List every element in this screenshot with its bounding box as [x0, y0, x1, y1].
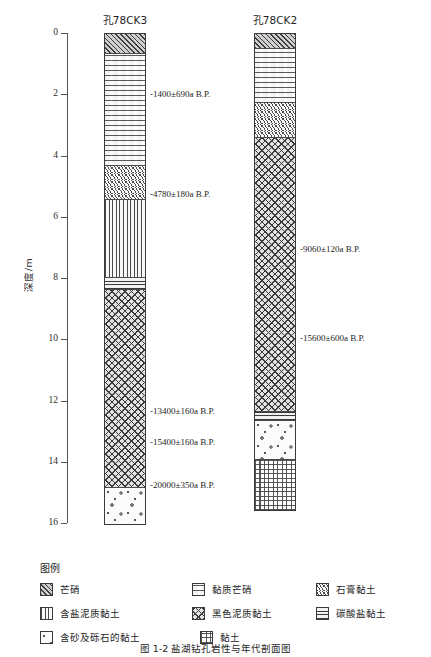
column-header-ck2: 孔78CK2 [233, 12, 317, 27]
date-label-ck3-4: -15400±160a B.P. [150, 438, 215, 447]
legend-item-salt-muddy-clay[interactable]: 含盐泥质黏土 [40, 606, 192, 620]
axis-tick-label-12: 12 [30, 396, 58, 406]
axis-tick-label-0: 0 [30, 28, 58, 38]
axis-tick-14 [61, 462, 67, 463]
layer-ck2-carbonate-clay [255, 411, 295, 420]
layer-ck3-sand-gravel-clay [105, 487, 145, 524]
layer-ck3-clayey-mirabilite [105, 53, 145, 165]
legend-title: 图例 [40, 560, 420, 575]
axis-tick-12 [61, 401, 67, 402]
axis-tick-10 [61, 339, 67, 340]
date-label-ck3-3: -13400±160a B.P. [150, 407, 215, 416]
legend-row-1: 芒硝 黏质芒硝 石膏黏土 [40, 582, 420, 596]
axis-tick-2 [61, 94, 67, 95]
layer-ck3-mirabilite [105, 34, 145, 53]
date-label-ck3-5: -20000±350a B.P. [150, 481, 215, 490]
legend-row-2: 含盐泥质黏土 黑色泥质黏土 碳酸盐黏土 [40, 606, 420, 620]
legend-label-gypsum-clay: 石膏黏土 [336, 582, 376, 596]
date-label-ck2-2: -15600±600a B.P. [300, 334, 365, 343]
axis-tick-label-10: 10 [30, 334, 58, 344]
legend-item-black-muddy-clay[interactable]: 黑色泥质黏土 [192, 606, 316, 620]
layer-ck2-gypsum-clay [255, 102, 295, 137]
axis-tick-0 [61, 33, 67, 34]
axis-tick-8 [61, 278, 67, 279]
axis-tick-label-14: 14 [30, 457, 58, 467]
depth-axis-line [67, 33, 68, 523]
legend-label-black-muddy-clay: 黑色泥质黏土 [212, 606, 272, 620]
layer-ck2-mirabilite [255, 34, 295, 48]
axis-tick-label-6: 6 [30, 212, 58, 222]
figure-caption: 图 1-2 盐湖钻孔岩性与年代剖面图 [0, 641, 431, 655]
axis-tick-label-16: 16 [30, 518, 58, 528]
legend-item-mirabilite[interactable]: 芒硝 [40, 582, 192, 596]
layer-ck3-black-muddy-clay [105, 289, 145, 487]
carbonate-clay-swatch-icon [316, 607, 329, 620]
axis-tick-label-4: 4 [30, 151, 58, 161]
clayey-mirabilite-swatch-icon [192, 583, 205, 596]
borehole-column-ck2[interactable] [254, 33, 296, 511]
layer-ck3-salt-muddy-clay [105, 199, 145, 277]
layer-ck2-sand-gravel-clay [255, 420, 295, 459]
date-label-ck3-1: -1400±690a B.P. [150, 90, 210, 99]
legend-label-salt-muddy-clay: 含盐泥质黏土 [60, 606, 120, 620]
black-muddy-clay-swatch-icon [192, 607, 205, 620]
borehole-column-ck3[interactable] [104, 33, 146, 525]
gypsum-clay-swatch-icon [316, 583, 329, 596]
legend-item-gypsum-clay[interactable]: 石膏黏土 [316, 582, 421, 596]
layer-ck2-black-muddy-clay [255, 137, 295, 411]
date-label-ck3-2: -4780±180a B.P. [150, 190, 210, 199]
borehole-log-figure: 深度/m 0 2 4 6 8 10 12 14 16 孔78CK3 -1400±… [0, 0, 431, 657]
legend-label-mirabilite: 芒硝 [60, 582, 80, 596]
layer-ck3-gypsum-clay [105, 165, 145, 199]
layer-ck2-clayey-mirabilite [255, 48, 295, 102]
axis-tick-6 [61, 217, 67, 218]
axis-tick-4 [61, 156, 67, 157]
legend: 图例 芒硝 黏质芒硝 石膏黏土 含盐泥质黏土 黑色泥质黏土 [40, 560, 420, 654]
layer-ck3-carbonate-clay [105, 277, 145, 289]
axis-tick-label-8: 8 [30, 273, 58, 283]
legend-label-carbonate-clay: 碳酸盐黏土 [336, 606, 386, 620]
date-label-ck2-1: -9060±120a B.P. [300, 245, 360, 254]
axis-tick-label-2: 2 [30, 89, 58, 99]
axis-tick-16 [61, 523, 67, 524]
legend-item-carbonate-clay[interactable]: 碳酸盐黏土 [316, 606, 421, 620]
layer-ck2-clay [255, 459, 295, 510]
legend-item-clayey-mirabilite[interactable]: 黏质芒硝 [192, 582, 316, 596]
column-header-ck3: 孔78CK3 [83, 12, 167, 27]
salt-muddy-clay-swatch-icon [40, 607, 53, 620]
legend-label-clayey-mirabilite: 黏质芒硝 [212, 582, 252, 596]
mirabilite-swatch-icon [40, 583, 53, 596]
